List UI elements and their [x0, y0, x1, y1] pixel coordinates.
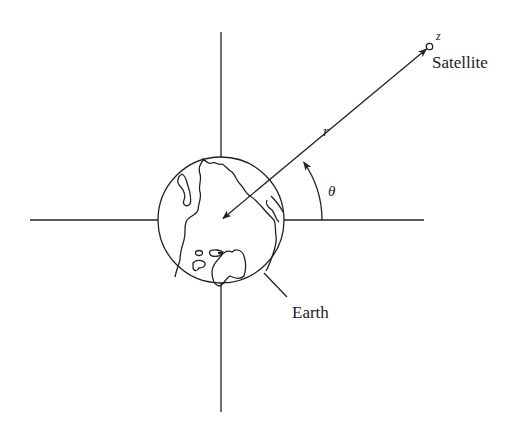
theta-angle-arc [304, 162, 322, 220]
z-axis-label: z [435, 29, 441, 43]
satellite-geometry-diagram: z Satellite r θ Earth [0, 0, 530, 431]
r-label: r [323, 123, 329, 139]
earth-label: Earth [292, 303, 329, 322]
theta-label: θ [328, 183, 336, 199]
satellite-marker [426, 43, 432, 49]
earth-globe [158, 157, 284, 286]
satellite-label: Satellite [432, 53, 488, 72]
earth-leader-line [264, 273, 287, 297]
